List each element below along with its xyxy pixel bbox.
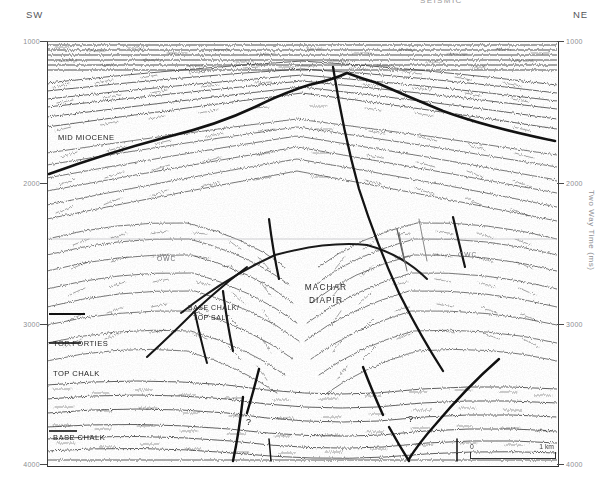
tick-right-2000 bbox=[557, 183, 564, 184]
annotation-query-left: ? bbox=[246, 417, 251, 427]
y-axis-right-tick-1000: 1000 bbox=[566, 38, 592, 45]
tick-right-1000 bbox=[557, 41, 564, 42]
annotation-top-chalk: TOP CHALK bbox=[53, 369, 100, 379]
figure-caption-cutoff: SEISMIC bbox=[420, 0, 600, 6]
y-axis-right-tick-3000: 3000 bbox=[566, 321, 592, 328]
annotation-top-forties: TOP FORTIES bbox=[53, 339, 108, 349]
tick-left-2000 bbox=[40, 183, 47, 184]
annotation-machar-line1: MACHAR bbox=[288, 281, 364, 294]
y-axis-right-tick-4000: 4000 bbox=[566, 461, 592, 468]
tick-left-1000 bbox=[40, 41, 47, 42]
annotation-owc-right: OWC bbox=[458, 250, 477, 260]
tick-right-4000 bbox=[557, 464, 564, 465]
seismic-traces bbox=[47, 41, 557, 465]
y-axis-left-tick-2000: 2000 bbox=[14, 180, 40, 187]
annotation-query-right: ? bbox=[408, 414, 413, 424]
scale-bar-rule bbox=[470, 452, 556, 459]
annotation-base-chalk: BASE CHALK bbox=[53, 433, 105, 443]
scale-bar-label-zero: 0 bbox=[470, 443, 474, 450]
y-axis-right-tick-2000: 2000 bbox=[566, 180, 592, 187]
seismic-section-figure: SEISMIC SW NE 1000 2000 3000 4000 1000 2… bbox=[0, 0, 611, 489]
y-axis-left-tick-3000: 3000 bbox=[14, 321, 40, 328]
seismic-panel bbox=[47, 41, 557, 465]
scale-bar-label-1km: 1 km bbox=[539, 443, 554, 450]
annotation-owc-left: OWC bbox=[157, 254, 176, 264]
orientation-label-sw: SW bbox=[26, 9, 43, 20]
y-axis-left-tick-4000: 4000 bbox=[14, 461, 40, 468]
y-axis-left-tick-1000: 1000 bbox=[14, 38, 40, 45]
orientation-label-ne: NE bbox=[573, 9, 588, 20]
annotation-base-chalk-top-salt-line1: BASE CHALK/ bbox=[188, 303, 239, 313]
scale-bar: 0 1 km bbox=[470, 445, 554, 461]
annotation-mid-miocene: MID MIOCENE bbox=[58, 133, 114, 143]
tick-left-4000 bbox=[40, 464, 47, 465]
y-axis-title: Two Way Time (ms) bbox=[587, 190, 596, 271]
tick-right-3000 bbox=[557, 324, 564, 325]
annotation-diapir-line2: DIAPIR bbox=[288, 294, 364, 307]
annotation-base-chalk-top-salt-line2: TOP SALT bbox=[193, 313, 230, 323]
tick-left-3000 bbox=[40, 324, 47, 325]
